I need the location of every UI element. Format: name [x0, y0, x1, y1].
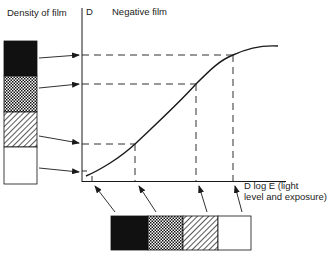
guide-lines: [82, 55, 233, 181]
left-density-strip: [4, 41, 37, 184]
y-axis-label: D: [86, 6, 93, 17]
bottom-arrows: [95, 186, 242, 212]
arrow-bottom-1: [95, 186, 115, 212]
bottom-segment-black: [111, 216, 148, 250]
left-segment-hatched: [4, 112, 37, 147]
bottom-segment-hatched: [183, 216, 218, 250]
density-of-film-label: Density of film: [7, 7, 67, 18]
film-density-diagram: Density of film D Negative film D log E …: [0, 0, 329, 258]
bottom-segment-white: [218, 216, 251, 250]
left-segment-black: [4, 41, 37, 76]
arrow-left-4: [39, 168, 79, 172]
arrow-left-3: [39, 136, 79, 143]
left-segment-white: [4, 147, 37, 184]
bottom-exposure-strip: [111, 216, 251, 250]
arrow-bottom-2: [139, 186, 156, 212]
bottom-segment-checker: [148, 216, 183, 250]
left-arrows: [39, 55, 79, 172]
x-axis-label-line2: level and exposure): [244, 191, 327, 202]
arrow-bottom-4: [235, 186, 242, 212]
arrow-bottom-3: [199, 186, 207, 212]
left-segment-checker: [4, 76, 37, 112]
characteristic-curve: [86, 46, 278, 176]
diagram-title: Negative film: [112, 6, 167, 17]
arrow-left-2: [39, 84, 79, 88]
arrow-left-1: [39, 55, 79, 58]
